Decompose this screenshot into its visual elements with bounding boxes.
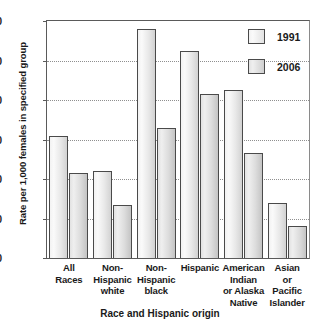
x-axis-tick-label: AsianorPacificIslander — [259, 262, 315, 308]
x-axis-tick-label-line: Pacific — [259, 285, 315, 297]
bar-group — [268, 21, 307, 258]
y-axis-tick-label: 120 — [0, 16, 2, 27]
y-axis-tick-label: 40 — [0, 174, 2, 185]
bar-chart-figure: Rate per 1,000 females in specified grou… — [0, 0, 320, 327]
bar-2006 — [244, 153, 263, 258]
bar-2006 — [157, 128, 176, 258]
bar-2006 — [69, 173, 88, 258]
y-axis-tick-mark — [43, 100, 47, 101]
bar-1991 — [268, 203, 287, 258]
y-axis-tick-mark — [43, 140, 47, 141]
y-axis-tick-mark — [43, 21, 47, 22]
legend-swatch-2006 — [248, 59, 265, 74]
bar-1991 — [49, 136, 68, 258]
plot-inner — [47, 21, 309, 258]
y-axis-tick-label: 60 — [0, 134, 2, 145]
y-axis-tick-mark — [43, 179, 47, 180]
y-axis-tick-label: 80 — [0, 95, 2, 106]
x-axis-tick-label-line: Asian — [259, 262, 315, 274]
bar-1991 — [93, 171, 112, 258]
legend-label-1991: 1991 — [277, 31, 300, 43]
x-axis-title: Race and Hispanic origin — [0, 308, 320, 319]
bar-group — [93, 21, 132, 258]
legend-item-1991: 1991 — [248, 29, 300, 44]
bar-1991 — [180, 51, 199, 258]
bar-group — [49, 21, 88, 258]
bar-group — [224, 21, 263, 258]
bar-2006 — [113, 205, 132, 258]
bar-2006 — [288, 226, 307, 258]
x-axis-tick-label-line: or — [259, 274, 315, 286]
x-axis-tick-label-line: black — [128, 285, 184, 297]
bar-group — [180, 21, 219, 258]
bar-1991 — [137, 29, 156, 258]
bar-1991 — [224, 90, 243, 258]
bar-2006 — [200, 94, 219, 258]
y-axis-tick-mark — [43, 219, 47, 220]
legend-item-2006: 2006 — [248, 59, 300, 74]
x-axis-tick-label-line: Hispanic — [128, 274, 184, 286]
y-axis-tick-label: 20 — [0, 213, 2, 224]
x-axis-tick-label-line: Islander — [259, 297, 315, 309]
y-axis-title: Rate per 1,000 females in specified grou… — [17, 14, 28, 254]
legend-label-2006: 2006 — [277, 61, 300, 73]
y-axis-tick-mark — [43, 61, 47, 62]
y-axis-tick-mark — [43, 258, 47, 259]
y-axis-tick-label: 0 — [0, 253, 2, 264]
plot-area — [46, 20, 310, 259]
y-axis-tick-label: 100 — [0, 55, 2, 66]
legend-swatch-1991 — [248, 29, 265, 44]
bar-group — [137, 21, 176, 258]
